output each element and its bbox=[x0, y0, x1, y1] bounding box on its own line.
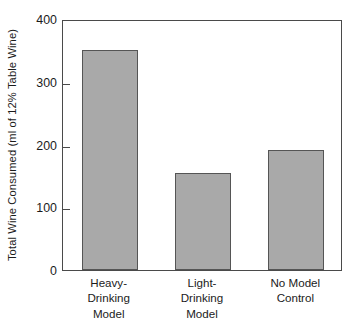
y-axis-tick-mark bbox=[63, 147, 70, 148]
x-axis-tick-label-line: Heavy- bbox=[62, 275, 155, 290]
x-axis-tick-label-line: No Model bbox=[249, 275, 342, 290]
x-axis-tick-label-line: Control bbox=[249, 290, 342, 305]
y-axis-tick-label: 400 bbox=[11, 14, 57, 26]
x-axis-tick-label: Light-DrinkingModel bbox=[155, 275, 248, 321]
x-axis-tick-label: No ModelControl bbox=[249, 275, 342, 306]
bar-chart-figure: Total Wine Consumed (ml of 12% Table Win… bbox=[0, 0, 361, 325]
bar bbox=[175, 173, 231, 270]
x-axis-tick-label-line: Model bbox=[155, 306, 248, 321]
y-axis-tick-label: 100 bbox=[11, 202, 57, 214]
bar bbox=[82, 50, 138, 270]
x-axis-tick-label-line: Drinking bbox=[155, 290, 248, 305]
y-axis-tick-label: 200 bbox=[11, 139, 57, 151]
y-axis-tick-label: 300 bbox=[11, 77, 57, 89]
x-axis-tick-label: Heavy-DrinkingModel bbox=[62, 275, 155, 321]
x-axis-tick-label-line: Model bbox=[62, 306, 155, 321]
x-axis-tick-label-line: Light- bbox=[155, 275, 248, 290]
y-axis-tick-mark bbox=[63, 209, 70, 210]
y-axis-tick-label: 0 bbox=[11, 265, 57, 277]
y-axis-tick-mark bbox=[63, 84, 70, 85]
x-axis-tick-label-line: Drinking bbox=[62, 290, 155, 305]
plot-area bbox=[62, 20, 342, 271]
bar bbox=[268, 150, 324, 270]
